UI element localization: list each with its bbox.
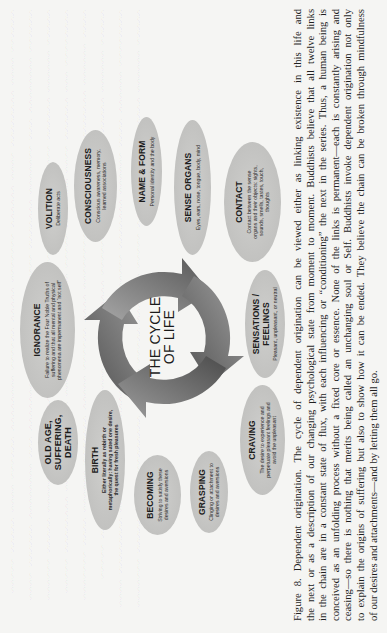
node-description: Clinging or attachment to desires and av… (208, 461, 220, 523)
node-description: Pleasant, unpleasant, or neutral (272, 287, 278, 360)
book-page: ~~~~~~ ~~~~ ~~~~~~~~ ~~~~ ~~~~~~ ~~~~~~~… (0, 0, 387, 633)
node-old-age-suffering-death: OLD AGE, SUFFERING, DEATH (38, 400, 78, 485)
node-name-form: NAME & FORM Personal identity and the bo… (131, 117, 162, 226)
node-title: VOLITION (45, 188, 55, 229)
node-title: CONSCIOUSNESS (84, 148, 94, 224)
node-description: Deliberate acts (55, 191, 61, 226)
cycle-label-line1: THE CYCLE (148, 287, 162, 387)
cycle-center-label: THE CYCLE OF LIFE (148, 287, 176, 387)
node-title: IGNORANCE (33, 304, 43, 357)
caption-line: ceasing—so there is nothing that merits … (342, 9, 355, 621)
node-description: Eyes, ears, nose, tongue, body, mind (195, 145, 201, 230)
node-title: SENSE ORGANS (184, 153, 194, 223)
node-title: GRASPING (198, 469, 208, 515)
node-description: Either literally as rebirth or metaphori… (101, 408, 119, 512)
node-description: The desire to experience and perpetuate … (259, 401, 277, 479)
node-volition: VOLITION Deliberate acts (38, 162, 68, 255)
node-grasping: GRASPING Clinging or attachment to desir… (190, 451, 228, 533)
node-title: OLD AGE, SUFFERING, DEATH (43, 412, 73, 473)
node-becoming: BECOMING Striving to satisfy these desir… (134, 455, 181, 535)
node-title: SENSATIONS / FEELINGS (252, 276, 271, 372)
node-description: Striving to satisfy these desires and av… (157, 465, 169, 525)
caption-line: of our desires and attachments—and by le… (368, 9, 381, 621)
node-title: CONTACT (235, 181, 245, 223)
node-title: CRAVING (248, 420, 258, 459)
caption-line: the next or as a description of our chan… (305, 9, 318, 621)
node-craving: CRAVING The desire to experience and per… (240, 385, 285, 495)
node-description: Conscious awareness, memory, learned ass… (95, 144, 107, 228)
node-title: BECOMING (146, 471, 156, 519)
node-sense-organs: SENSE ORGANS Eyes, ears, nose, tongue, b… (174, 120, 211, 255)
node-description: Failure to realize the Four Noble Truths… (44, 280, 62, 380)
node-title: BIRTH (91, 447, 101, 473)
node-birth: BIRTH Either literally as rebirth or met… (85, 390, 125, 530)
caption-line: to explain the origins of suffering but … (355, 9, 368, 621)
caption-line: conceived as an unfolding process withou… (330, 9, 343, 621)
node-ignorance: IGNORANCE Failure to realize the Four No… (20, 262, 75, 398)
node-title: NAME & FORM (138, 141, 148, 203)
node-description: Contact between the sense organs and the… (246, 162, 270, 242)
node-description: Personal identity and the body (149, 137, 155, 207)
node-contact: CONTACT Contact between the sense organs… (224, 142, 281, 262)
figure-caption: Figure 8. Dependent origination. The cyc… (292, 9, 380, 621)
caption-line: Figure 8. Dependent origination. The cyc… (292, 9, 305, 621)
node-sensations-feelings: SENSATIONS / FEELINGS Pleasant, unpleasa… (245, 270, 285, 378)
caption-line: in the chain are in a constant state of … (317, 9, 330, 621)
node-consciousness: CONSCIOUSNESS Conscious awareness, memor… (74, 130, 117, 242)
cycle-label-line2: OF LIFE (162, 287, 176, 387)
